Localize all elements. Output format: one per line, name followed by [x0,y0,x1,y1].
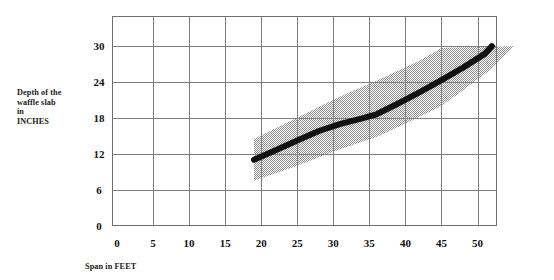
x-axis-title: Span in FEET [85,262,136,272]
y-axis-title-line-4: INCHES [17,117,97,127]
y-tick-label-6: 6 [96,184,102,196]
x-tick-label-45: 45 [436,237,447,249]
x-tick-label-5: 5 [150,237,156,249]
y-axis-title-line-3: in [17,107,97,117]
y-tick-label-24: 24 [94,76,105,88]
y-tick-label-18: 18 [94,112,105,124]
chart-plot-area [0,0,554,280]
y-tick-label-30: 30 [94,40,105,52]
y-axis-title-line-1: Depth of the [17,88,97,98]
x-tick-label-25: 25 [292,237,303,249]
y-tick-label-0: 0 [96,220,102,232]
y-axis-title: Depth of the waffle slab in INCHES [17,88,97,126]
x-tick-label-50: 50 [472,237,483,249]
y-tick-label-12: 12 [94,148,105,160]
x-tick-label-10: 10 [184,237,195,249]
waffle-slab-depth-chart: Depth of the waffle slab in INCHES Span … [0,0,554,280]
x-tick-label-40: 40 [400,237,411,249]
x-tick-label-30: 30 [328,237,339,249]
x-tick-label-35: 35 [364,237,375,249]
y-axis-title-line-2: waffle slab [17,98,97,108]
x-tick-label-20: 20 [256,237,267,249]
x-tick-label-15: 15 [220,237,231,249]
x-tick-label-0: 0 [114,237,120,249]
